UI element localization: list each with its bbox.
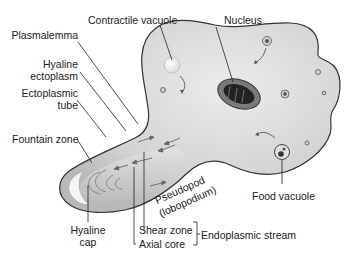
- label-hyaline-ectoplasm-2: ectoplasm: [20, 70, 78, 82]
- label-contractile-vacuole: Contractile vacuole: [88, 14, 177, 26]
- label-hyaline-cap-1: Hyaline: [68, 224, 108, 236]
- food-vacuole: [275, 145, 290, 160]
- label-endoplasmic-stream: Endoplasmic stream: [201, 229, 296, 241]
- label-hyaline-ectoplasm-1: Hyaline: [20, 58, 78, 70]
- label-ectoplasmic-tube-2: tube: [10, 99, 78, 111]
- label-nucleus: Nucleus: [224, 14, 262, 26]
- label-plasmalemma: Plasmalemma: [8, 29, 78, 41]
- label-fountain-zone: Fountain zone: [12, 133, 79, 145]
- label-axial-core: Axial core: [139, 238, 185, 250]
- label-food-vacuole: Food vacuole: [252, 190, 315, 202]
- label-shear-zone: Shear zone: [139, 224, 193, 236]
- label-ectoplasmic-tube-1: Ectoplasmic: [10, 87, 78, 99]
- label-hyaline-cap-2: cap: [68, 236, 108, 248]
